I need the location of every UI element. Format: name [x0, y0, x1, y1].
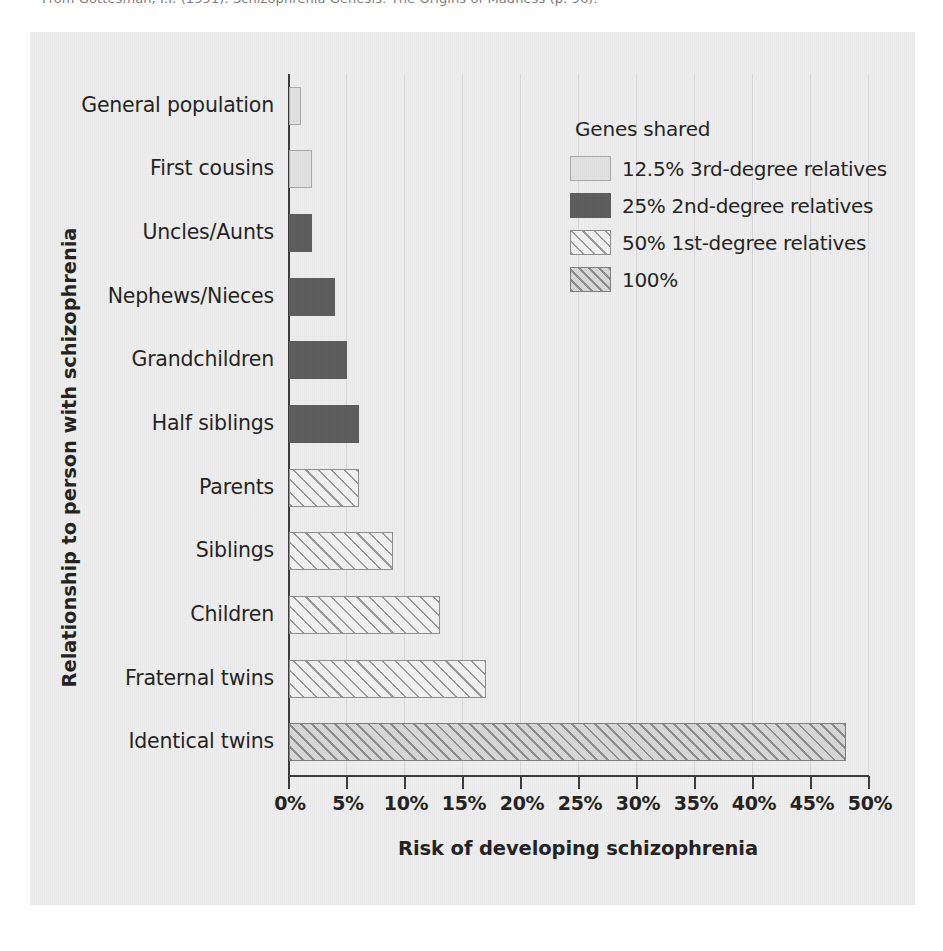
y-axis-category-label: Identical twins — [128, 729, 274, 753]
bar — [289, 278, 335, 316]
bar — [289, 87, 301, 125]
y-axis-category-label: Half siblings — [152, 411, 274, 435]
legend-swatch-icon — [570, 193, 611, 218]
y-axis-category-label: Grandchildren — [131, 347, 274, 371]
x-axis-tick-label: 50% — [835, 792, 905, 814]
bar — [289, 660, 486, 698]
bar — [289, 405, 359, 443]
y-axis-category-label: Parents — [199, 475, 274, 499]
x-axis-tick — [810, 776, 812, 789]
x-axis-tick — [578, 776, 580, 789]
y-axis-category-label: General population — [81, 93, 274, 117]
bar — [289, 723, 846, 761]
source-caption: From Gottesman, I.I. (1991). Schizophren… — [42, 0, 598, 6]
legend-items: 12.5% 3rd-degree relatives25% 2nd-degree… — [570, 150, 887, 298]
x-axis-title: Risk of developing schizophrenia — [288, 837, 868, 860]
bar-row: Children — [288, 583, 868, 647]
x-axis-tick — [288, 776, 290, 789]
x-axis-tick — [404, 776, 406, 789]
x-axis-tick — [694, 776, 696, 789]
chart-legend: Genes shared 12.5% 3rd-degree relatives2… — [570, 117, 887, 298]
bar — [289, 341, 347, 379]
bar — [289, 532, 393, 570]
legend-item: 100% — [570, 261, 887, 298]
legend-item-label: 12.5% 3rd-degree relatives — [622, 157, 887, 181]
bar-row: Fraternal twins — [288, 647, 868, 711]
bar — [289, 469, 359, 507]
legend-title: Genes shared — [575, 117, 887, 141]
y-axis-category-label: Nephews/Nieces — [108, 284, 274, 308]
legend-swatch-icon — [570, 267, 611, 292]
x-axis-tick — [636, 776, 638, 789]
legend-item-label: 100% — [622, 268, 678, 292]
y-axis-category-label: Children — [190, 602, 274, 626]
x-axis-tick — [520, 776, 522, 789]
legend-swatch-icon — [570, 156, 611, 181]
bar — [289, 214, 312, 252]
legend-item: 50% 1st-degree relatives — [570, 224, 887, 261]
bar-row: Parents — [288, 456, 868, 520]
x-axis-tick — [462, 776, 464, 789]
bar-row: Grandchildren — [288, 329, 868, 393]
x-axis-tick — [346, 776, 348, 789]
legend-item: 25% 2nd-degree relatives — [570, 187, 887, 224]
x-axis-tick — [868, 776, 870, 789]
legend-item-label: 50% 1st-degree relatives — [622, 231, 866, 255]
bar — [289, 596, 440, 634]
legend-item: 12.5% 3rd-degree relatives — [570, 150, 887, 187]
y-axis-category-label: Siblings — [196, 538, 274, 562]
bar-row: Identical twins — [288, 710, 868, 774]
y-axis-category-label: Fraternal twins — [125, 666, 274, 690]
bar — [289, 150, 312, 188]
legend-swatch-icon — [570, 230, 611, 255]
y-axis-title: Relationship to person with schizophreni… — [58, 178, 81, 738]
y-axis-category-label: Uncles/Aunts — [143, 220, 275, 244]
figure-panel: Relationship to person with schizophreni… — [30, 32, 915, 905]
x-axis-tick — [752, 776, 754, 789]
legend-item-label: 25% 2nd-degree relatives — [622, 194, 873, 218]
bar-row: Siblings — [288, 519, 868, 583]
y-axis-category-label: First cousins — [150, 156, 274, 180]
bar-row: Half siblings — [288, 392, 868, 456]
